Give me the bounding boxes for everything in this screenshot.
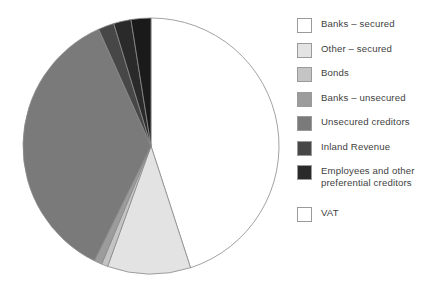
legend-item-label: Other – secured xyxy=(321,43,392,55)
legend-swatch-icon xyxy=(297,141,312,156)
legend-swatch-icon xyxy=(297,18,312,33)
pie-svg xyxy=(0,0,290,301)
legend-item-other-secured[interactable]: Other – secured xyxy=(297,43,444,58)
pie-chart-graphic xyxy=(0,0,290,301)
legend-swatch-icon xyxy=(297,67,312,82)
legend-item-label: Inland Revenue xyxy=(321,141,390,153)
legend-item-employees-preferential[interactable]: Employees and other preferential credito… xyxy=(297,165,444,189)
legend-item-bonds[interactable]: Bonds xyxy=(297,67,444,82)
legend-item-banks-secured[interactable]: Banks – secured xyxy=(297,18,444,33)
legend-item-vat[interactable]: VAT xyxy=(297,207,444,222)
legend-swatch-icon xyxy=(297,43,312,58)
chart-legend: Banks – secured Other – secured Bonds Ba… xyxy=(297,18,444,231)
legend-item-label: VAT xyxy=(321,207,339,219)
pie-chart-figure: Banks – secured Other – secured Bonds Ba… xyxy=(0,0,444,301)
pie-slice-group xyxy=(23,18,279,274)
legend-swatch-icon xyxy=(297,165,312,180)
legend-item-label: Unsecured creditors xyxy=(321,116,410,128)
legend-item-banks-unsecured[interactable]: Banks – unsecured xyxy=(297,92,444,107)
legend-item-label: Employees and other preferential credito… xyxy=(321,165,415,189)
legend-swatch-icon xyxy=(297,92,312,107)
legend-item-label: Banks – unsecured xyxy=(321,92,406,104)
legend-swatch-icon xyxy=(297,207,312,222)
legend-swatch-icon xyxy=(297,116,312,131)
legend-item-label: Banks – secured xyxy=(321,18,395,30)
legend-item-unsecured-creditors[interactable]: Unsecured creditors xyxy=(297,116,444,131)
legend-item-label: Bonds xyxy=(321,67,349,79)
legend-item-inland-revenue[interactable]: Inland Revenue xyxy=(297,141,444,156)
